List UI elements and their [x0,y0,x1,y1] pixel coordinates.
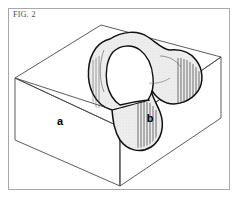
figure-root: FIG. 2 [0,0,240,200]
label-b: b [147,112,154,124]
label-a: a [57,115,64,127]
patent-line-drawing: a b [0,0,240,200]
